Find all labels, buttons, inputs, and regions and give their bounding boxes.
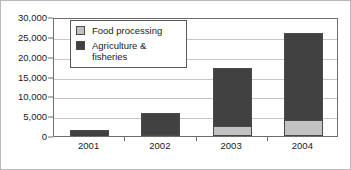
bar-segment — [213, 126, 252, 136]
y-tick-label: 0 — [42, 132, 47, 142]
bar-segment — [284, 120, 323, 136]
y-tick-label: 15,000 — [18, 73, 47, 83]
y-tick-label: 20,000 — [18, 53, 47, 63]
x-tick-label: 2004 — [292, 141, 313, 151]
legend-label-agriculture-fisheries: Agriculture & fisheries — [92, 40, 146, 62]
y-tick-label: 25,000 — [18, 33, 47, 43]
legend-swatch-food-processing — [76, 26, 85, 35]
bar-segment — [70, 130, 109, 136]
bar-group — [70, 130, 109, 136]
legend-label-food-processing: Food processing — [92, 25, 162, 36]
y-tick-label: 5,000 — [23, 112, 47, 122]
legend-item-agriculture-fisheries: Agriculture & fisheries — [76, 40, 181, 62]
chart-legend: Food processing Agriculture & fisheries — [70, 20, 187, 68]
legend-swatch-agriculture-fisheries — [76, 41, 85, 50]
bar-group — [284, 33, 323, 136]
bar-group — [141, 113, 180, 136]
legend-label-line-2: fisheries — [92, 51, 127, 62]
y-tick-label: 10,000 — [18, 93, 47, 103]
bar-group — [213, 68, 252, 136]
stacked-bar-chart: 05,00010,00015,00020,00025,00030,000 200… — [0, 0, 351, 170]
x-tick-label: 2001 — [78, 141, 99, 151]
x-tick-label: 2003 — [221, 141, 242, 151]
bar-segment — [141, 134, 180, 136]
y-tick-label: 30,000 — [18, 13, 47, 23]
legend-item-food-processing: Food processing — [76, 25, 181, 36]
bar-segment — [284, 33, 323, 120]
bar-segment — [141, 113, 180, 134]
bar-segment — [213, 68, 252, 126]
x-tick-label: 2002 — [149, 141, 170, 151]
y-axis: 05,00010,00015,00020,00025,00030,000 — [1, 18, 47, 137]
x-axis: 2001200220032004 — [53, 141, 338, 159]
legend-label-line-1: Agriculture & — [92, 40, 146, 51]
